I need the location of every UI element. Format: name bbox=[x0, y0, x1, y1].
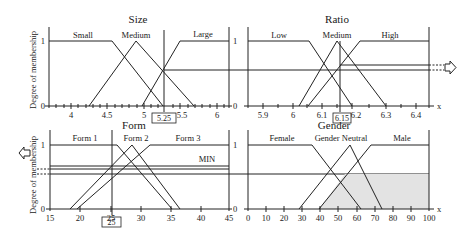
size-set-small: Small bbox=[73, 30, 93, 40]
form-tick-15: 15 bbox=[46, 213, 55, 223]
gender-tick-30: 30 bbox=[298, 213, 307, 223]
size-right-zero: 0 bbox=[233, 101, 237, 111]
ratio-x-label: x bbox=[437, 101, 442, 111]
gender-tick-100: 100 bbox=[423, 213, 436, 223]
fuzzy-inference-figure: Size 1 0 1 0 Small Medium Large 4 4.5 5 … bbox=[0, 0, 468, 244]
gender-set-female: Female bbox=[269, 133, 294, 143]
ratio-tick-6-4: 6.4 bbox=[411, 110, 422, 120]
form-right-zero: 0 bbox=[233, 204, 237, 214]
size-medium-curve bbox=[89, 41, 194, 106]
form-title: Form bbox=[122, 119, 146, 131]
ratio-set-low: Low bbox=[271, 30, 287, 40]
gender-tick-0: 0 bbox=[246, 213, 250, 223]
form-tick-35: 35 bbox=[167, 213, 176, 223]
form-tick-30: 30 bbox=[137, 213, 146, 223]
size-input-value: 5.25 bbox=[157, 114, 171, 123]
form-tick-45: 45 bbox=[225, 213, 234, 223]
form-set-3: Form 3 bbox=[176, 133, 201, 143]
ratio-set-high: High bbox=[382, 30, 400, 40]
gender-set-neutral: Gender Neutral bbox=[315, 133, 368, 143]
ratio-title: Ratio bbox=[325, 13, 349, 25]
gender-tick-80: 80 bbox=[389, 213, 398, 223]
ratio-tick-6-2: 6.2 bbox=[351, 110, 362, 120]
ratio-tick-5-9: 5.9 bbox=[258, 110, 269, 120]
size-one-label: 1 bbox=[41, 36, 45, 46]
form-one-label: 1 bbox=[41, 140, 45, 150]
size-set-large: Large bbox=[193, 29, 213, 39]
ratio-low-curve bbox=[248, 41, 352, 106]
form-right-one: 1 bbox=[233, 140, 237, 150]
arrow-right-icon bbox=[445, 61, 456, 74]
gender-tick-50: 50 bbox=[334, 213, 343, 223]
size-small-curve bbox=[49, 41, 163, 106]
gender-tick-60: 60 bbox=[353, 213, 362, 223]
ratio-medium-curve bbox=[299, 41, 386, 106]
size-tick-6: 6 bbox=[215, 110, 219, 120]
size-tick-4: 4 bbox=[69, 110, 74, 120]
form1-curve bbox=[50, 145, 172, 209]
gender-tick-70: 70 bbox=[371, 213, 380, 223]
gender-tick-20: 20 bbox=[280, 213, 289, 223]
form-set-2: Form 2 bbox=[124, 133, 149, 143]
form-ylabel: Degree of membership bbox=[28, 136, 38, 214]
size-zero-label: 0 bbox=[41, 101, 45, 111]
form-tick-40: 40 bbox=[197, 213, 206, 223]
gender-tick-10: 10 bbox=[262, 213, 271, 223]
min-label: MIN bbox=[199, 154, 216, 164]
ratio-tick-6: 6 bbox=[291, 110, 295, 120]
ratio-panel bbox=[244, 27, 456, 123]
gender-set-male: Male bbox=[393, 133, 411, 143]
size-panel bbox=[45, 27, 248, 123]
ratio-tick-6-3: 6.3 bbox=[381, 110, 392, 120]
form-zero-label: 0 bbox=[41, 204, 45, 214]
size-tick-4-5: 4.5 bbox=[102, 110, 113, 120]
gender-tick-90: 90 bbox=[407, 213, 416, 223]
form-tick-20: 20 bbox=[76, 213, 85, 223]
gender-tick-40: 40 bbox=[316, 213, 325, 223]
gender-output-area bbox=[319, 174, 429, 209]
form-set-1: Form 1 bbox=[73, 133, 98, 143]
size-right-one: 1 bbox=[233, 36, 237, 46]
size-ylabel: Degree of membership bbox=[28, 31, 38, 109]
ratio-set-medium: Medium bbox=[323, 30, 352, 40]
gender-title: Gender bbox=[318, 119, 351, 131]
gender-x-label: x bbox=[437, 204, 442, 214]
form-input-value: 25 bbox=[108, 218, 116, 227]
size-tick-5-5: 5.5 bbox=[177, 110, 188, 120]
size-title: Size bbox=[129, 13, 148, 25]
ratio-high-curve bbox=[308, 41, 429, 106]
size-set-medium: Medium bbox=[122, 30, 151, 40]
